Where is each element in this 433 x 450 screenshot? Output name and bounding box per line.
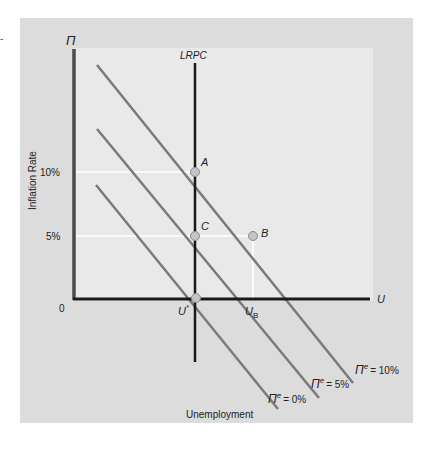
- curve-pe-10: [97, 65, 353, 383]
- y-axis-label: Inflation Rate: [27, 151, 38, 210]
- curve-pe-0: [96, 185, 278, 409]
- point-b-label: B: [261, 227, 268, 239]
- x-axis-label: Unemployment: [186, 409, 253, 420]
- x-axis-symbol: U: [377, 293, 385, 305]
- curve-pe-5-label: Πe= 5%: [311, 376, 349, 391]
- lrpc-label: LRPC: [180, 50, 207, 61]
- u-star-label: U*: [178, 304, 189, 317]
- point-ustar: [192, 294, 201, 303]
- point-c: [191, 232, 200, 241]
- point-c-label: C: [201, 220, 209, 232]
- y-axis-symbol: Π: [66, 33, 76, 48]
- curve-pe-5: [97, 129, 319, 398]
- y-tick-10: 10%: [40, 167, 60, 178]
- phillips-curve-chart: Π LRPC 10% 5% 0 Inflation Rate A C B U* …: [0, 0, 433, 450]
- curve-pe-10-label: Πe= 10%: [355, 362, 399, 377]
- curve-pe-0-label: Πe= 0%: [268, 391, 306, 406]
- point-a-label: A: [200, 156, 208, 168]
- y-tick-0: 0: [59, 303, 65, 314]
- point-a: [191, 168, 200, 177]
- y-tick-5: 5%: [46, 231, 61, 242]
- point-b: [249, 232, 258, 241]
